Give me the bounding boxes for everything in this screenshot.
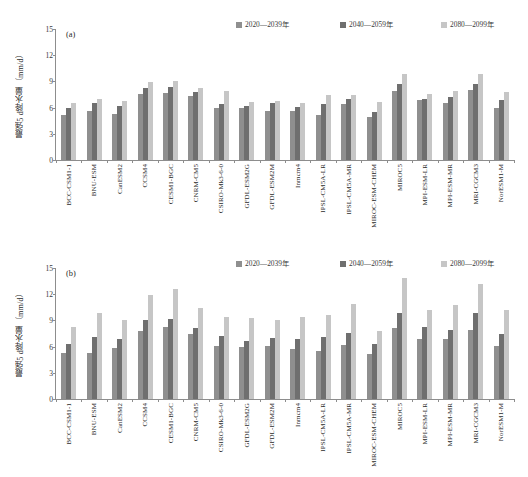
y-axis-tick-mark <box>53 29 56 30</box>
x-axis-tick-mark <box>183 160 184 163</box>
x-axis-tick-label: MRI-CGCM3 <box>472 164 480 205</box>
x-axis-tick-mark <box>81 399 82 402</box>
y-axis-tick-mark <box>53 108 56 109</box>
bar-2080-2099 <box>478 74 483 160</box>
x-axis-tick-label: Inmcm4 <box>294 403 302 427</box>
bar-2080-2099 <box>173 289 178 399</box>
bar-2080-2099 <box>453 305 458 399</box>
legend-swatch-2020-2039 <box>236 261 242 267</box>
x-axis-tick-label: GFDL-ESM2M <box>268 164 276 210</box>
legend-item-2040-2059: 2040—2059年 <box>340 259 393 268</box>
x-axis-tick-label: BCC-CSM1-1 <box>65 164 73 205</box>
y-axis-tick-mark <box>53 320 56 321</box>
bar-2080-2099 <box>402 278 407 399</box>
x-axis-tick-mark <box>514 160 515 163</box>
bar-2080-2099 <box>173 81 178 160</box>
x-axis-tick-label: BCC-CSM1-1 <box>65 403 73 444</box>
bar-2080-2099 <box>148 82 153 160</box>
x-axis-tick-label: IPSL-CM5A-MR <box>345 164 353 215</box>
bar-2080-2099 <box>122 320 127 399</box>
x-axis-tick-mark <box>183 399 184 402</box>
legend-label-2040-2059: 2040—2059年 <box>349 20 393 29</box>
x-axis-tick-label: MPI-ESM-MR <box>446 403 454 446</box>
legend-item-2020-2039: 2020—2039年 <box>236 259 289 268</box>
bar-group <box>367 268 382 399</box>
x-axis-tick-label: MRI-CGCM3 <box>472 403 480 444</box>
x-axis-tick-label: CCSM4 <box>141 164 149 187</box>
bar-2080-2099 <box>351 95 356 160</box>
bar-2080-2099 <box>249 318 254 399</box>
legend-swatch-2040-2059 <box>340 22 346 28</box>
x-axis-tick-label: IPSL-CM5A-MR <box>345 403 353 454</box>
y-axis-tick-mark <box>53 55 56 56</box>
x-axis-tick-label: MIROC5 <box>396 403 404 430</box>
bar-group <box>494 268 509 399</box>
bar-2080-2099 <box>326 315 331 399</box>
x-axis-tick-label: CSIRO-Mk3-6-0 <box>217 164 225 213</box>
bar-2080-2099 <box>453 91 458 160</box>
x-axis-tick-mark <box>56 160 57 163</box>
x-axis-tick-mark <box>285 399 286 402</box>
bar-group <box>468 268 483 399</box>
bar-group <box>239 268 254 399</box>
x-axis-tick-label: NorESM1-M <box>497 403 505 441</box>
x-axis-tick-mark <box>489 399 490 402</box>
bar-group <box>188 268 203 399</box>
x-axis-tick-label: CNRM-CM5 <box>192 403 200 441</box>
bar-2080-2099 <box>427 310 432 399</box>
x-axis-tick-label: NorESM1-M <box>497 164 505 202</box>
bar-group <box>87 268 102 399</box>
bar-group <box>417 29 432 160</box>
y-axis-label-panel-a: 最强5 d降水量（mm/d） <box>14 28 28 160</box>
y-axis-tick-mark <box>53 294 56 295</box>
bar-group <box>87 29 102 160</box>
x-axis-tick-label: MIROC5 <box>396 164 404 191</box>
bar-group <box>290 29 305 160</box>
legend-label-2080-2099: 2080—2099年 <box>450 259 494 268</box>
bar-2080-2099 <box>504 310 509 399</box>
x-axis-tick-mark <box>310 399 311 402</box>
x-axis-tick-mark <box>361 160 362 163</box>
bar-2080-2099 <box>148 295 153 399</box>
bar-2080-2099 <box>351 304 356 399</box>
x-axis-tick-mark <box>107 160 108 163</box>
legend-item-2080-2099: 2080—2099年 <box>441 259 494 268</box>
legend-item-2020-2039: 2020—2039年 <box>236 20 289 29</box>
bar-group <box>468 29 483 160</box>
plot-area-panel-a: 03691215 <box>56 29 514 160</box>
bar-group <box>239 29 254 160</box>
x-axis-tick-label: GFDL-ESM2G <box>243 403 251 448</box>
plot-area-panel-b: 03691215 <box>56 268 514 399</box>
y-axis-tick-mark <box>53 134 56 135</box>
x-axis-tick-mark <box>260 160 261 163</box>
y-axis-tick-mark <box>53 81 56 82</box>
bar-group <box>112 268 127 399</box>
x-axis-tick-mark <box>209 160 210 163</box>
x-axis-tick-mark <box>234 160 235 163</box>
bar-group <box>367 29 382 160</box>
x-axis-tick-label: CanESM2 <box>116 403 124 433</box>
x-axis-tick-mark <box>209 399 210 402</box>
y-axis-label-panel-b: 最强5 d降水量（mm/d） <box>14 267 28 399</box>
bar-2080-2099 <box>504 92 509 160</box>
legend-label-2080-2099: 2080—2099年 <box>450 20 494 29</box>
bar-group <box>112 29 127 160</box>
x-axis-tick-mark <box>387 160 388 163</box>
y-axis-tick-mark <box>53 347 56 348</box>
bar-2080-2099 <box>402 74 407 160</box>
x-axis-tick-mark <box>132 160 133 163</box>
x-axis-tick-mark <box>387 399 388 402</box>
bar-2080-2099 <box>71 327 76 399</box>
bar-2080-2099 <box>275 101 280 160</box>
x-axis-tick-mark <box>514 399 515 402</box>
x-axis-tick-mark <box>158 399 159 402</box>
x-axis-tick-mark <box>463 160 464 163</box>
bar-2080-2099 <box>377 331 382 399</box>
panel-b: 2020—2039年 2040—2059年 2080—2099年 最强5 d降水… <box>0 239 528 477</box>
x-axis-tick-label: MPI-ESM-MR <box>446 164 454 207</box>
y-axis-tick-label: 12 <box>45 290 53 299</box>
x-axis-tick-label: MIROC-ESM-CHEM <box>370 164 378 228</box>
x-axis-tick-label: BNU-ESM <box>90 403 98 435</box>
bar-group <box>417 268 432 399</box>
bar-group <box>214 29 229 160</box>
